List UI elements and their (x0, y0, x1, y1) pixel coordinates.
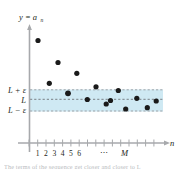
data-point (104, 101, 109, 106)
x-axis-label: n (170, 138, 174, 148)
data-point (55, 60, 60, 65)
data-point (154, 98, 159, 103)
data-point (65, 90, 71, 96)
x-tick-label-2: 2 (44, 149, 48, 158)
y-axis-label: y = a n (18, 12, 44, 23)
y-axis-arrowhead (27, 24, 32, 30)
x-tick-label-M: M (120, 148, 129, 158)
data-point (116, 88, 121, 93)
epsilon-band (30, 90, 163, 112)
y-axis-label-subscript: n (41, 17, 44, 23)
plot-canvas: y = a n n L + ε L L − ε 1 2 3 4 5 6 ⋯ M (0, 0, 181, 169)
label-l: L (20, 95, 26, 105)
figure-caption: The terms of the sequence get closer and… (4, 163, 180, 169)
x-tick-label-5: 5 (69, 149, 73, 158)
data-point (74, 71, 79, 76)
x-tick-label-1: 1 (36, 149, 40, 158)
label-l-minus-epsilon: L − ε (7, 105, 27, 115)
sequence-convergence-figure: y = a n n L + ε L L − ε 1 2 3 4 5 6 ⋯ M … (0, 0, 181, 169)
data-point (47, 81, 52, 86)
x-tick-label-6: 6 (77, 149, 81, 158)
data-point (85, 97, 90, 102)
data-point (35, 38, 40, 43)
data-point (93, 84, 98, 89)
x-tick-label-ellipsis: ⋯ (100, 148, 108, 157)
x-tick-label-4: 4 (61, 149, 65, 158)
y-axis-label-text: y = a (18, 12, 37, 22)
label-l-plus-epsilon: L + ε (7, 85, 27, 95)
data-point (145, 105, 150, 110)
x-tick-label-3: 3 (52, 149, 56, 158)
data-point (123, 106, 128, 111)
data-point (108, 98, 113, 103)
data-point (134, 96, 139, 101)
